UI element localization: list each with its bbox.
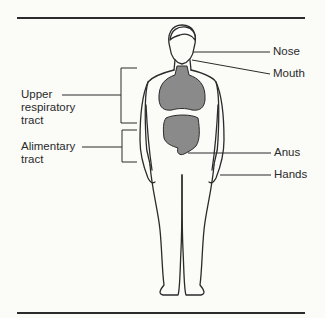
label-alimentary-line2: tract: [21, 153, 43, 166]
left-leg: [150, 165, 182, 295]
label-hands: Hands: [274, 168, 307, 181]
left-arm: [140, 82, 155, 183]
intestines-alimentary: [163, 115, 199, 155]
hair: [170, 27, 195, 40]
alimentary-bracket: [82, 130, 137, 162]
right-arm: [209, 82, 224, 183]
label-alimentary-line1: Alimentary: [21, 140, 75, 153]
label-anus: Anus: [274, 146, 300, 159]
label-upper-respiratory-line2: respiratory: [21, 101, 75, 114]
right-leg: [182, 165, 214, 295]
mouth-leader: [192, 60, 270, 74]
upper-respiratory-bracket: [62, 68, 137, 123]
label-mouth: Mouth: [273, 67, 305, 80]
label-nose: Nose: [273, 45, 300, 58]
label-upper-respiratory-line1: Upper: [21, 88, 52, 101]
label-upper-respiratory-line3: tract: [21, 114, 43, 127]
